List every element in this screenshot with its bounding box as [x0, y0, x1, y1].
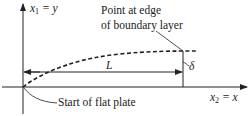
horizontal-axis-label: x2 = x	[210, 92, 238, 105]
boundary-layer-diagram: x1 = y Point at edge of boundary layer L…	[0, 0, 251, 116]
edge-point-label-line1: Point at edge	[101, 5, 161, 17]
vertical-axis-label: x1 = y	[30, 3, 58, 16]
vertical-axis-rest: = y	[39, 2, 58, 14]
edge-point-label-line2: of boundary layer	[101, 20, 183, 32]
length-label: L	[106, 60, 112, 72]
plate-start-label: Start of flat plate	[58, 97, 136, 109]
plate-start-leader	[24, 88, 57, 103]
horizontal-axis-rest: = x	[219, 91, 238, 103]
thickness-label: δ	[189, 61, 194, 73]
edge-point-leader	[156, 31, 183, 51]
